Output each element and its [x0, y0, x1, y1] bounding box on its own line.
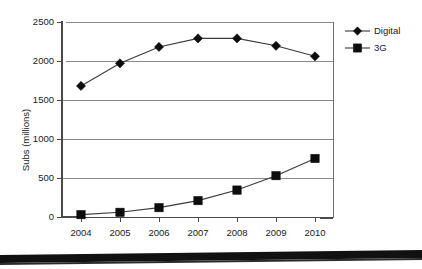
square-marker [272, 171, 280, 179]
y-tick-label-1000: 1000 [33, 133, 54, 144]
legend-label-3g: 3G [374, 42, 387, 53]
chart-container: 2500 2000 1500 1000 500 0 2004 2005 2006… [0, 0, 422, 269]
x-tick-label-2010: 2010 [304, 227, 325, 238]
square-marker [311, 154, 319, 162]
y-tick-label-2500: 2500 [33, 16, 54, 27]
x-tick-label-2004: 2004 [70, 227, 91, 238]
x-tick-label-2005: 2005 [109, 227, 130, 238]
y-tick-label-1500: 1500 [33, 94, 54, 105]
legend-label-digital: Digital [374, 25, 400, 36]
x-tick-label-2006: 2006 [148, 227, 169, 238]
square-marker [233, 186, 241, 194]
y-tick-label-0: 0 [49, 211, 54, 222]
x-tick-label-2008: 2008 [226, 227, 247, 238]
square-marker [116, 208, 124, 216]
x-tick-label-2007: 2007 [187, 227, 208, 238]
square-marker [77, 210, 85, 218]
y-tick-label-2000: 2000 [33, 55, 54, 66]
line-chart: 2500 2000 1500 1000 500 0 2004 2005 2006… [0, 0, 422, 269]
square-marker [194, 196, 202, 204]
x-tick-label-2009: 2009 [265, 227, 286, 238]
y-tick-label-500: 500 [38, 172, 54, 183]
y-axis-title: Subs (millions) [20, 109, 31, 171]
square-marker [155, 203, 163, 211]
square-marker [353, 44, 361, 52]
chart-background [0, 0, 422, 269]
